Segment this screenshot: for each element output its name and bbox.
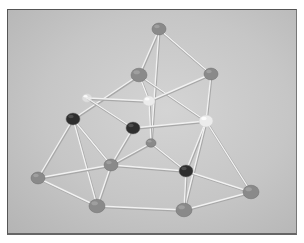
- gumdrop-top: [152, 23, 166, 35]
- toothpick: [38, 165, 111, 178]
- gumdrop-white-right: [199, 115, 213, 127]
- gumdrop-left-bottom: [31, 172, 45, 184]
- toothpick: [184, 192, 251, 210]
- gumdrop-bottom-left: [89, 199, 105, 213]
- gumdrop-structure: [8, 10, 297, 235]
- photo-frame: [7, 9, 297, 235]
- gumdrop-faint-left: [82, 94, 92, 103]
- toothpick-shadow: [185, 193, 252, 211]
- gumdrop-nodes: [31, 23, 259, 217]
- gumdrop-dark-center: [126, 122, 140, 134]
- toothpick: [159, 29, 211, 74]
- gumdrop-white-center: [143, 96, 155, 106]
- toothpick-shadow: [112, 166, 187, 172]
- toothpick: [111, 165, 186, 171]
- toothpick: [87, 98, 133, 128]
- gumdrop-upper-right: [204, 68, 218, 80]
- toothpick: [38, 178, 97, 206]
- gumdrop-small-center: [146, 139, 156, 148]
- toothpick-shadow: [134, 122, 207, 129]
- toothpick: [186, 171, 251, 192]
- toothpick-shadow: [39, 120, 74, 179]
- toothpick: [133, 121, 206, 128]
- gumdrop-dark-left: [66, 113, 80, 125]
- gumdrop-right-bottom: [243, 185, 259, 199]
- toothpick: [38, 119, 73, 178]
- gumdrop-bottom-right: [176, 203, 192, 217]
- gumdrop-upper-mid: [131, 68, 147, 82]
- gumdrop-mid: [104, 159, 118, 171]
- toothpick-shadow: [39, 166, 112, 179]
- gumdrop-dark-right: [179, 165, 193, 177]
